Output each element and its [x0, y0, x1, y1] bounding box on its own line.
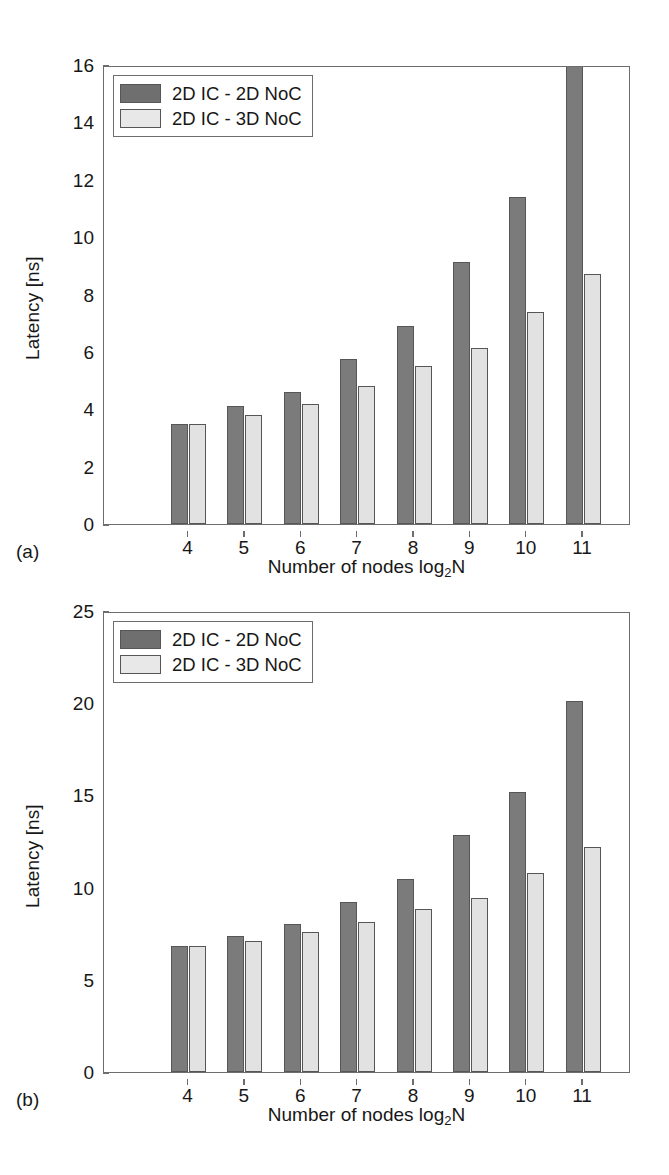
legend-swatch-icon [120, 84, 161, 103]
plot-area-a: 2D IC - 2D NoC 2D IC - 3D NoC [103, 66, 630, 525]
x-axis-label-a: Number of nodes log2N [103, 556, 630, 578]
y-axis-tick-label: 5 [0, 970, 103, 992]
bar [471, 348, 488, 524]
panel-caption-b: (b) [16, 1089, 39, 1111]
legend-b: 2D IC - 2D NoC 2D IC - 3D NoC [113, 621, 313, 683]
bar [566, 66, 583, 524]
bar [340, 359, 357, 524]
bar [453, 835, 470, 1072]
x-axis-label-base: Number of nodes log [268, 1104, 444, 1125]
y-axis-tick-label: 0 [0, 514, 103, 536]
y-axis-tick-label: 0 [0, 1062, 103, 1084]
bar [509, 197, 526, 524]
x-axis-label-base: Number of nodes log [268, 556, 444, 577]
bar [471, 898, 488, 1072]
legend-item: 2D IC - 3D NoC [120, 652, 302, 677]
bar [284, 924, 301, 1072]
y-axis-tick-label: 14 [0, 112, 103, 134]
bar [227, 406, 244, 524]
plot-area-b: 2D IC - 2D NoC 2D IC - 3D NoC [103, 612, 630, 1073]
bar [245, 415, 262, 524]
bar [397, 879, 414, 1072]
bar [566, 701, 583, 1072]
bar [302, 404, 319, 524]
legend-swatch-icon [120, 630, 161, 649]
y-axis-tick-label: 15 [0, 785, 103, 807]
bar [358, 922, 375, 1072]
panel-caption-a: (a) [16, 541, 39, 563]
x-axis-label-subscript: 2 [444, 1113, 451, 1128]
y-axis-tick-label: 20 [0, 693, 103, 715]
bar [584, 274, 601, 524]
y-axis-tick-label: 25 [0, 601, 103, 623]
bar [527, 312, 544, 524]
legend-item: 2D IC - 3D NoC [120, 106, 302, 131]
y-axis-tick-label: 4 [0, 399, 103, 421]
bar [584, 847, 601, 1072]
bar [189, 424, 206, 524]
bar [302, 932, 319, 1072]
legend-label: 2D IC - 2D NoC [172, 629, 302, 651]
y-axis-tick-label: 16 [0, 55, 103, 77]
bar [415, 366, 432, 524]
chart-panel-a: Latency [ns] 0246810121416 2D IC - 2D No… [0, 0, 669, 588]
x-axis-label-tail: N [451, 556, 465, 577]
bar [340, 902, 357, 1072]
y-axis-ticks-a: 0246810121416 [0, 66, 103, 525]
legend-swatch-icon [120, 109, 161, 128]
bar [527, 873, 544, 1072]
x-axis-label-b: Number of nodes log2N [103, 1104, 630, 1126]
y-axis-tick-label: 2 [0, 457, 103, 479]
bar [453, 262, 470, 524]
bar [245, 941, 262, 1072]
y-axis-tick-label: 6 [0, 342, 103, 364]
y-axis-ticks-b: 0510152025 [0, 612, 103, 1073]
legend-item: 2D IC - 2D NoC [120, 81, 302, 106]
legend-swatch-icon [120, 655, 161, 674]
figure: Latency [ns] 0246810121416 2D IC - 2D No… [0, 0, 669, 1175]
bar [284, 392, 301, 524]
legend-a: 2D IC - 2D NoC 2D IC - 3D NoC [113, 75, 313, 137]
legend-item: 2D IC - 2D NoC [120, 627, 302, 652]
x-axis-label-tail: N [451, 1104, 465, 1125]
bar [189, 946, 206, 1072]
y-axis-tick-label: 8 [0, 285, 103, 307]
bar [358, 386, 375, 524]
bar [171, 424, 188, 524]
chart-panel-b: Latency [ns] 0510152025 2D IC - 2D NoC 2… [0, 588, 669, 1175]
legend-label: 2D IC - 2D NoC [172, 83, 302, 105]
bar [509, 792, 526, 1072]
bar [397, 326, 414, 524]
legend-label: 2D IC - 3D NoC [172, 654, 302, 676]
y-axis-tick-label: 10 [0, 878, 103, 900]
x-axis-label-subscript: 2 [444, 565, 451, 580]
bar [227, 936, 244, 1072]
legend-label: 2D IC - 3D NoC [172, 108, 302, 130]
y-axis-tick-label: 12 [0, 170, 103, 192]
y-axis-tick-label: 10 [0, 227, 103, 249]
bar [415, 909, 432, 1072]
bar [171, 946, 188, 1072]
